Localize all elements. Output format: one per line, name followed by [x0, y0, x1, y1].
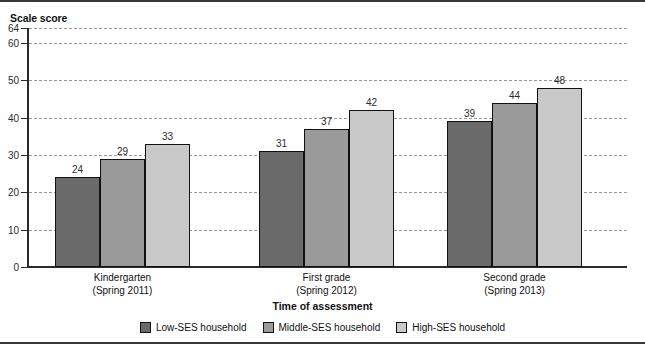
bar-value-label: 37: [321, 116, 332, 127]
gridline: [29, 80, 627, 81]
bar-1-1: 37: [304, 129, 349, 267]
category-label-line2: (Spring 2011): [55, 285, 190, 298]
y-axis-tick-label: 30: [8, 149, 19, 160]
y-axis-tick: [21, 230, 27, 231]
y-axis-tick: [21, 28, 27, 29]
category-label-line1: First grade: [303, 272, 351, 283]
category-label-line2: (Spring 2013): [447, 285, 582, 298]
category-label-0: Kindergarten(Spring 2011): [55, 272, 190, 297]
legend-label: Middle-SES household: [279, 322, 381, 333]
y-axis-tick-label: 60: [8, 37, 19, 48]
clipped-header-text: [0, 0, 645, 3]
bar-2-0: 39: [447, 121, 492, 267]
legend-label: High-SES household: [412, 322, 505, 333]
legend-swatch-middle-ses: [263, 322, 274, 333]
bar-2-2: 48: [537, 88, 582, 267]
bar-1-0: 31: [259, 151, 304, 267]
y-axis-tick-label: 50: [8, 75, 19, 86]
bar-value-label: 29: [117, 146, 128, 157]
category-label-1: First grade(Spring 2012): [259, 272, 394, 297]
category-label-line2: (Spring 2012): [259, 285, 394, 298]
legend-swatch-high-ses: [396, 322, 407, 333]
gridline: [29, 43, 627, 44]
category-label-line1: Kindergarten: [94, 272, 151, 283]
bar-value-label: 42: [366, 97, 377, 108]
y-axis-line: [27, 28, 29, 267]
y-axis-tick-label: 10: [8, 224, 19, 235]
legend-item-2: High-SES household: [396, 322, 505, 333]
bar-value-label: 39: [464, 108, 475, 119]
gridline: [29, 28, 627, 29]
y-axis-tick-label: 0: [13, 262, 19, 273]
bar-0-0: 24: [55, 177, 100, 267]
plot-area: 010203040506064 242933313742394448 Kinde…: [27, 28, 627, 267]
y-axis-tick: [21, 267, 27, 268]
bar-0-1: 29: [100, 159, 145, 267]
y-axis-tick: [21, 192, 27, 193]
legend-swatch-low-ses: [140, 322, 151, 333]
category-label-2: Second grade(Spring 2013): [447, 272, 582, 297]
y-axis-tick-label: 20: [8, 187, 19, 198]
x-axis-title: Time of assessment: [0, 300, 645, 312]
legend-item-0: Low-SES household: [140, 322, 247, 333]
chart-legend: Low-SES householdMiddle-SES householdHig…: [0, 322, 645, 333]
bar-value-label: 24: [72, 164, 83, 175]
bar-value-label: 44: [509, 90, 520, 101]
legend-label: Low-SES household: [156, 322, 247, 333]
legend-item-1: Middle-SES household: [263, 322, 381, 333]
category-label-line1: Second grade: [483, 272, 545, 283]
y-axis-tick-label: 40: [8, 112, 19, 123]
y-axis-tick-label: 64: [8, 23, 19, 34]
bar-0-2: 33: [145, 144, 190, 267]
bar-value-label: 33: [162, 131, 173, 142]
y-axis-tick: [21, 118, 27, 119]
bar-2-1: 44: [492, 103, 537, 267]
y-axis-tick: [21, 43, 27, 44]
bar-value-label: 48: [554, 75, 565, 86]
bar-value-label: 31: [276, 138, 287, 149]
y-axis-tick: [21, 155, 27, 156]
chart-figure: Scale score 010203040506064 242933313742…: [0, 0, 645, 344]
y-axis-tick: [21, 80, 27, 81]
bar-1-2: 42: [349, 110, 394, 267]
